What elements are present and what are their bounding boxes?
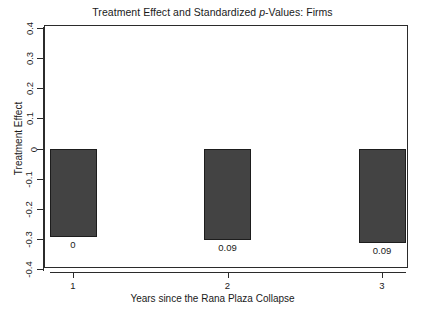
y-axis-tick-mark xyxy=(37,58,43,59)
y-axis-tick-mark xyxy=(37,118,43,119)
x-axis-tick-label: 2 xyxy=(208,280,248,291)
y-axis-tick-label: 0.4 xyxy=(0,21,36,35)
chart-title-part-after: -Values: Firms xyxy=(265,6,333,18)
x-axis-tick-mark xyxy=(73,272,74,278)
x-axis-title: Years since the Rana Plaza Collapse xyxy=(0,293,425,304)
y-axis-tick-mark xyxy=(37,209,43,210)
y-axis-tick-mark xyxy=(37,28,43,29)
chart-title: Treatment Effect and Standardized p-Valu… xyxy=(0,6,425,18)
y-axis-tick-label-text: 0.3 xyxy=(24,51,35,64)
bar[interactable] xyxy=(204,149,251,241)
y-axis-tick-label-text: 0.2 xyxy=(24,81,35,94)
y-axis-tick-label-text: 0.1 xyxy=(24,111,35,124)
y-axis-tick-label-text: -0.3 xyxy=(22,231,33,247)
y-axis-tick-label: 0.3 xyxy=(0,51,36,65)
y-axis-line xyxy=(43,27,44,271)
bar-value-label: 0.09 xyxy=(188,242,268,253)
y-axis-tick-mark xyxy=(37,88,43,89)
y-axis-tick-mark xyxy=(37,179,43,180)
chart-figure: Treatment Effect and Standardized p-Valu… xyxy=(0,0,425,311)
y-axis-tick-label-text: -0.1 xyxy=(22,171,33,187)
chart-title-part-before: Treatment Effect and Standardized xyxy=(92,6,259,18)
x-axis-tick-mark xyxy=(382,272,383,278)
y-axis-tick-label: -0.3 xyxy=(0,232,36,246)
bar[interactable] xyxy=(50,149,97,238)
bar-value-label: 0 xyxy=(33,239,113,250)
y-axis-tick-mark xyxy=(37,269,43,270)
bar[interactable] xyxy=(359,149,406,244)
y-axis-tick-label-text: 0.4 xyxy=(24,21,35,34)
y-axis-tick-label-text: 0 xyxy=(28,146,39,151)
bar-value-label: 0.09 xyxy=(342,245,422,256)
x-axis-tick-label: 3 xyxy=(362,280,402,291)
x-axis-tick-mark xyxy=(228,272,229,278)
y-axis-tick-label: -0.4 xyxy=(0,262,36,276)
y-axis-title: Treatment Effect xyxy=(13,69,24,209)
x-axis-tick-label: 1 xyxy=(53,280,93,291)
y-axis-tick-label-text: -0.4 xyxy=(22,261,33,277)
y-axis-tick-label-text: -0.2 xyxy=(22,201,33,217)
